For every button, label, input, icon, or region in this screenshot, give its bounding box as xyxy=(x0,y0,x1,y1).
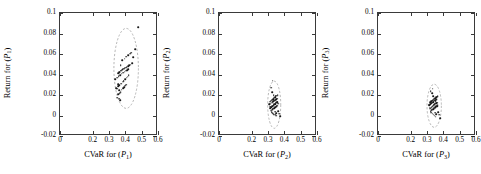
data-point xyxy=(436,113,438,115)
data-point xyxy=(437,95,439,97)
y-tick-label-3-6: 0.1 xyxy=(365,9,374,16)
data-point xyxy=(276,113,278,115)
scatter-panel-1: -0.0200.020.040.060.080.100.20.30.40.50.… xyxy=(0,0,158,174)
data-layer-2 xyxy=(219,13,315,134)
data-point xyxy=(428,104,430,106)
data-point xyxy=(277,103,279,105)
data-point xyxy=(277,105,279,107)
data-point xyxy=(125,84,127,86)
y-axis-title-1: Return for (P1) xyxy=(4,48,13,98)
y-tick-label-1-2: 0.02 xyxy=(43,91,56,98)
data-point xyxy=(119,100,121,102)
data-point xyxy=(271,92,273,94)
data-point xyxy=(437,104,439,106)
x-tick-label-1-0: 0 xyxy=(58,137,62,144)
y-tick-label-1-4: 0.06 xyxy=(43,50,56,57)
data-point xyxy=(123,68,125,70)
x-tick-label-1-2: 0.3 xyxy=(105,137,114,144)
y-tick-label-1-5: 0.08 xyxy=(43,30,56,37)
y-tick-label-1-1: 0 xyxy=(52,112,56,119)
data-point xyxy=(120,65,122,67)
y-tick-label-2-1: 0 xyxy=(211,112,215,119)
data-point xyxy=(120,83,122,85)
confidence-ellipse-2 xyxy=(219,13,315,134)
data-point xyxy=(429,107,431,109)
scatter-panel-3: -0.0200.020.040.060.080.100.20.30.40.50.… xyxy=(318,0,476,174)
data-point xyxy=(121,89,123,91)
data-point xyxy=(135,48,137,50)
confidence-ellipse-1 xyxy=(60,13,156,134)
data-point xyxy=(123,81,125,83)
x-tick-label-2-1: 0.2 xyxy=(247,137,256,144)
data-point xyxy=(115,79,117,81)
data-point xyxy=(128,68,130,70)
x-tick-label-3-4: 0.5 xyxy=(455,137,464,144)
x-tick-label-2-4: 0.5 xyxy=(296,137,305,144)
data-point xyxy=(430,90,432,92)
x-tick-label-1-1: 0.2 xyxy=(88,137,97,144)
data-point xyxy=(277,111,279,113)
y-tick-label-3-3: 0.04 xyxy=(361,71,374,78)
x-tick-label-3-0: 0 xyxy=(376,137,380,144)
data-point xyxy=(431,92,433,94)
data-point xyxy=(269,103,271,105)
data-point xyxy=(124,58,126,60)
data-point xyxy=(437,111,439,113)
data-point xyxy=(118,84,120,86)
data-point xyxy=(439,117,441,119)
plot-area-2: -0.0200.020.040.060.080.100.20.30.40.50.… xyxy=(218,12,316,135)
data-point xyxy=(126,56,128,58)
x-tick-label-3-1: 0.2 xyxy=(406,137,415,144)
x-axis-title-2: CVaR for (P2) xyxy=(218,151,316,160)
x-axis-title-3: CVaR for (P3) xyxy=(377,151,475,160)
data-point xyxy=(131,63,133,65)
y-tick-label-1-0: -0.02 xyxy=(41,132,56,139)
y-axis-title-3: Return for (P3) xyxy=(322,48,331,98)
data-point xyxy=(273,94,275,96)
data-point xyxy=(433,95,435,97)
x-tick-label-2-0: 0 xyxy=(217,137,221,144)
y-tick-label-1-3: 0.04 xyxy=(43,71,56,78)
data-point xyxy=(269,106,271,108)
y-tick-label-2-3: 0.04 xyxy=(202,71,215,78)
data-point xyxy=(438,114,440,116)
x-tick-label-3-3: 0.4 xyxy=(439,137,448,144)
data-point xyxy=(279,116,281,118)
data-point xyxy=(119,92,121,94)
plot-area-1: -0.0200.020.040.060.080.100.20.30.40.50.… xyxy=(59,12,157,135)
data-point xyxy=(132,56,134,58)
y-tick-label-1-6: 0.1 xyxy=(47,9,56,16)
scatter-panel-2: -0.0200.020.040.060.080.100.20.30.40.50.… xyxy=(159,0,317,174)
y-tick-label-3-5: 0.08 xyxy=(361,30,374,37)
data-point xyxy=(277,94,279,96)
plot-area-3: -0.0200.020.040.060.080.100.20.30.40.50.… xyxy=(377,12,475,135)
y-tick-label-2-6: 0.1 xyxy=(206,9,215,16)
x-tick-3-5 xyxy=(476,131,477,135)
x-tick-label-1-3: 0.4 xyxy=(121,137,130,144)
data-point xyxy=(272,80,274,82)
data-point xyxy=(270,87,272,89)
data-point xyxy=(121,60,123,62)
data-layer-3 xyxy=(378,13,474,134)
y-tick-label-2-2: 0.02 xyxy=(202,91,215,98)
confidence-ellipse-3 xyxy=(378,13,474,134)
y-tick-label-3-1: 0 xyxy=(370,112,374,119)
data-point xyxy=(118,89,120,91)
y-tick-label-2-5: 0.08 xyxy=(202,30,215,37)
data-point xyxy=(432,88,434,90)
data-point xyxy=(278,113,280,115)
data-layer-1 xyxy=(60,13,156,134)
y-tick-label-3-4: 0.06 xyxy=(361,50,374,57)
data-point xyxy=(128,75,130,77)
x-axis-title-1: CVaR for (P1) xyxy=(59,151,157,160)
y-tick-label-3-2: 0.02 xyxy=(361,91,374,98)
x-tick-label-2-2: 0.3 xyxy=(264,137,273,144)
data-point xyxy=(435,116,437,118)
data-point xyxy=(137,26,139,28)
y-tick-label-2-4: 0.06 xyxy=(202,50,215,57)
x-tick-label-1-4: 0.5 xyxy=(137,137,146,144)
x-tick-3-5 xyxy=(476,13,477,17)
data-point xyxy=(275,115,277,117)
x-tick-label-3-2: 0.3 xyxy=(423,137,432,144)
